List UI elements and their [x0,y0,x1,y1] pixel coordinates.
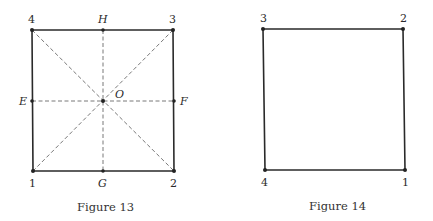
figure-13: 4 3 1 2 H G E F O Figure 13 [18,13,188,214]
point-3 [171,28,175,32]
point-f [172,99,176,103]
figures-canvas: 4 3 1 2 H G E F O Figure 13 3 2 4 1 Figu… [0,0,433,221]
point-3 [261,27,265,31]
label-midpoint-e: E [18,95,27,108]
label-midpoint-f: F [179,95,188,108]
point-g [101,169,105,173]
label-vertex-4: 4 [261,176,268,189]
label-vertex-3: 3 [260,12,267,25]
label-vertex-1: 1 [402,176,409,189]
label-vertex-2: 2 [170,177,177,190]
figure-14-square [263,29,405,170]
figure-14-caption: Figure 14 [309,199,366,213]
point-4 [263,168,267,172]
point-2 [172,169,176,173]
label-vertex-4: 4 [28,13,35,26]
point-2 [401,27,405,31]
label-vertex-3: 3 [169,13,176,26]
figure-13-caption: Figure 13 [77,200,134,214]
point-o [101,99,105,103]
point-1 [403,168,407,172]
point-1 [31,169,35,173]
label-center-o: O [115,88,124,101]
label-vertex-2: 2 [400,12,407,25]
figure-14-points [261,27,407,172]
point-h [101,28,105,32]
label-vertex-1: 1 [29,177,36,190]
point-e [30,99,34,103]
label-midpoint-h: H [97,13,108,26]
label-midpoint-g: G [98,177,107,190]
point-4 [30,28,34,32]
figure-14: 3 2 4 1 Figure 14 [260,12,409,213]
